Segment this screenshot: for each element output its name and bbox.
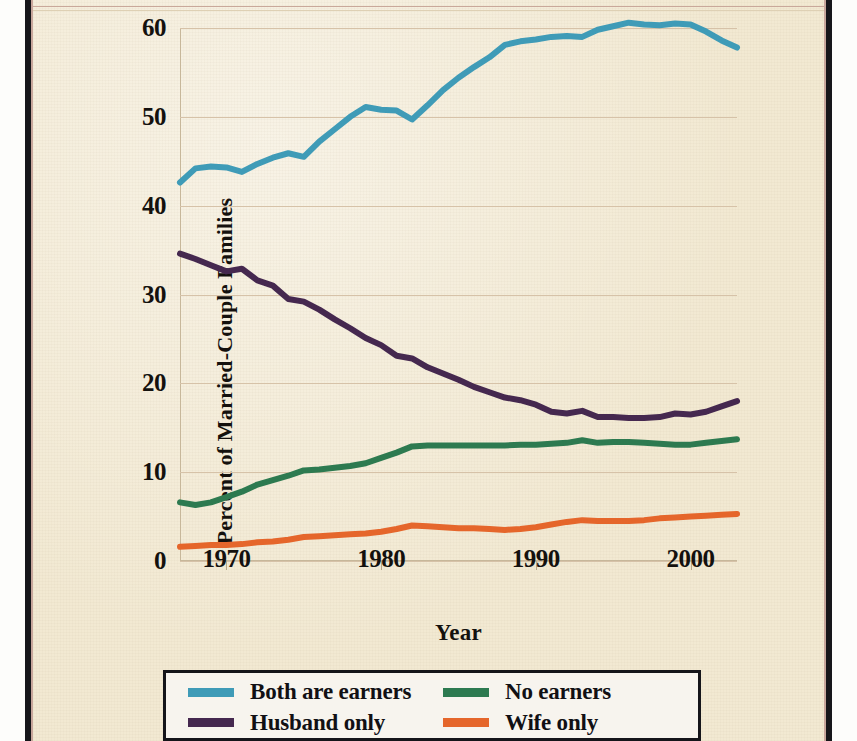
legend-label: Wife only xyxy=(505,710,598,736)
series-lines xyxy=(180,28,737,561)
legend-item-both-are-earners: Both are earners xyxy=(188,679,443,705)
legend-swatch-icon xyxy=(188,718,234,727)
legend-item-no-earners: No earners xyxy=(443,679,698,705)
y-tick-label: 20 xyxy=(142,369,166,397)
x-axis-title: Year xyxy=(180,620,737,646)
y-tick-label: 30 xyxy=(142,281,166,309)
legend-label: Husband only xyxy=(250,710,385,736)
y-tick-label: 10 xyxy=(142,458,166,486)
legend-swatch-icon xyxy=(188,688,234,697)
legend-label: No earners xyxy=(505,679,611,705)
y-tick-label: 50 xyxy=(142,103,166,131)
top-rule-primary xyxy=(33,6,824,7)
gridline xyxy=(180,561,737,562)
top-rule-secondary xyxy=(33,10,824,11)
series-line-wife-only xyxy=(180,514,737,547)
y-tick-label: 60 xyxy=(142,14,166,42)
legend-swatch-icon xyxy=(443,718,489,727)
legend-item-husband-only: Husband only xyxy=(188,710,443,736)
figure-page: Percent of Married-Couple Families 01020… xyxy=(0,0,857,741)
series-line-husband-only xyxy=(180,254,737,418)
legend-label: Both are earners xyxy=(250,679,411,705)
legend-item-wife-only: Wife only xyxy=(443,710,698,736)
legend-swatch-icon xyxy=(443,688,489,697)
series-line-no-earners xyxy=(180,439,737,505)
chart-legend: Both are earners No earners Husband only… xyxy=(163,670,701,741)
series-line-both-are-earners xyxy=(180,23,737,183)
y-tick-label: 40 xyxy=(142,192,166,220)
y-tick-label: 0 xyxy=(154,547,166,575)
